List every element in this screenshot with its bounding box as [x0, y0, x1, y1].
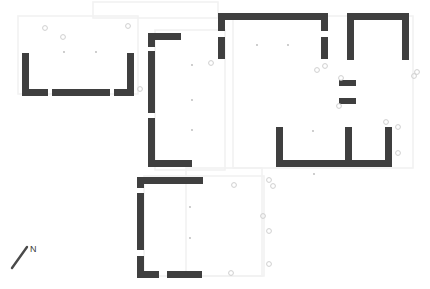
- wall-south-central-room-south-wall-right: [167, 271, 202, 278]
- wall-north-central-room-west-wall-lower: [218, 37, 225, 59]
- wall-central-spine-wall-vertical-lower: [148, 118, 155, 166]
- wall-north-central-room-east-wall-lower: [321, 37, 328, 59]
- wall-central-spine-wall-south-stub: [148, 160, 192, 167]
- wall-south-central-room-west-wall-upper: [137, 177, 144, 188]
- wall-south-central-room-west-wall-mid: [137, 193, 144, 250]
- wall-west-room-south-wall-left: [22, 89, 48, 96]
- survey-marker-20: [229, 271, 234, 276]
- wall-passage-stubs-upper-stub: [339, 80, 356, 86]
- north-arrow-line: [12, 247, 27, 268]
- wall-north-central-room-north-wall: [218, 13, 328, 20]
- survey-marker-5: [209, 61, 214, 66]
- measurement-dot-3: [191, 64, 193, 66]
- measurement-dot-2: [95, 51, 97, 53]
- wall-west-room-south-wall-mid: [52, 89, 110, 96]
- wall-northeast-room-west-wall: [347, 13, 354, 60]
- faint-outline-west-courtyard: [18, 16, 138, 94]
- wall-east-twin-cells-south-wall: [276, 160, 392, 167]
- survey-marker-15: [232, 183, 237, 188]
- survey-marker-2: [61, 35, 66, 40]
- survey-marker-18: [267, 229, 272, 234]
- survey-marker-3: [126, 24, 131, 29]
- survey-marker-6: [315, 68, 320, 73]
- survey-marker-14: [267, 178, 272, 183]
- measurement-dot-6: [256, 44, 258, 46]
- north-arrow: N: [12, 244, 37, 268]
- survey-marker-8: [339, 76, 344, 81]
- wall-south-central-room-south-wall-left: [137, 271, 159, 278]
- wall-northeast-room-north-wall: [347, 13, 409, 20]
- survey-marker-12: [396, 151, 401, 156]
- survey-marker-13: [384, 120, 389, 125]
- wall-south-central-room-north-wall: [137, 177, 203, 184]
- measurement-dot-4: [191, 99, 193, 101]
- faint-outline-central-court: [155, 30, 225, 170]
- measurement-dot-5: [191, 129, 193, 131]
- wall-north-central-room-east-wall-upper: [321, 13, 328, 31]
- wall-central-spine-wall-vertical-mid: [148, 51, 155, 113]
- survey-markers: [43, 24, 420, 276]
- wall-central-spine-wall-vertical-upper: [148, 33, 155, 47]
- floor-plan-drawing: N: [0, 0, 430, 289]
- measurement-dot-10: [189, 206, 191, 208]
- survey-marker-1: [43, 26, 48, 31]
- wall-west-room-east-wall: [127, 53, 134, 96]
- faint-outline-southeast-strip: [186, 168, 262, 276]
- measurement-dot-1: [63, 51, 65, 53]
- wall-segments: [22, 13, 409, 278]
- measurement-dot-11: [189, 237, 191, 239]
- measurement-dot-8: [312, 130, 314, 132]
- measurement-dot-7: [287, 44, 289, 46]
- survey-marker-16: [271, 184, 276, 189]
- survey-marker-19: [267, 262, 272, 267]
- measurement-dot-9: [313, 173, 315, 175]
- faint-outline-south-footprint: [144, 176, 264, 276]
- wall-passage-stubs-lower-stub: [339, 98, 356, 104]
- wall-north-central-room-west-wall-upper: [218, 13, 225, 31]
- survey-marker-9: [337, 104, 342, 109]
- wall-northeast-room-east-wall: [402, 13, 409, 60]
- survey-marker-7: [323, 64, 328, 69]
- floor-plan-canvas: N: [0, 0, 430, 289]
- north-arrow-label: N: [30, 244, 37, 254]
- survey-marker-11: [396, 125, 401, 130]
